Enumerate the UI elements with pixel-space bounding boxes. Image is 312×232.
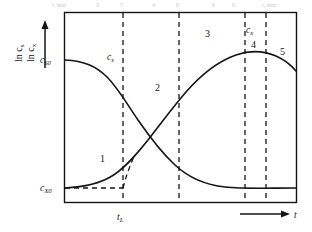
phase-label-5: 5	[280, 46, 285, 57]
y-tick-cx0-sub: X0	[43, 187, 52, 194]
bleed-through-text: 5	[120, 2, 123, 8]
substrate-curve	[65, 60, 296, 188]
bleed-through-text: 8	[176, 2, 179, 8]
y-axis-label-line2-sub: x	[30, 43, 38, 47]
bleed-through-text: 0	[232, 2, 235, 8]
y-axis-label-line2-text: ln c	[25, 47, 36, 62]
svg-text:ln cx: ln cx	[25, 43, 38, 62]
biomass-curve-label-sub: x	[249, 29, 253, 36]
y-axis-label-line2: ln cx	[25, 43, 38, 62]
x-axis-label: t	[294, 210, 297, 220]
substrate-curve-label-sub: s	[111, 56, 114, 63]
x-axis-arrow-head	[281, 211, 290, 218]
y-axis-arrow-head	[42, 20, 49, 29]
y-axis-label-line1-text: ln c	[13, 47, 24, 62]
bleed-through-text: 4	[152, 2, 155, 8]
phase-label-3: 3	[205, 28, 210, 39]
bleed-through-text: t, min	[52, 2, 66, 8]
x-tick-tl-sub: L	[119, 216, 124, 223]
x-tick-label-tl: tL	[117, 212, 124, 223]
y-axis-label-line1-sub: s	[18, 44, 26, 47]
plot-frame	[65, 13, 297, 203]
y-tick-label-cs0: cS0	[40, 55, 52, 66]
bleed-through-text: t, min	[262, 2, 276, 8]
bleed-through-text: 6	[212, 2, 215, 8]
y-tick-cs0-sub: S0	[44, 59, 51, 66]
phase-label-1: 1	[100, 153, 105, 164]
biomass-curve-label: cx	[246, 25, 253, 36]
y-tick-label-cx0: cX0	[40, 183, 52, 194]
bleed-through-text: 3	[96, 2, 99, 8]
phase-label-2: 2	[155, 82, 160, 93]
substrate-curve-label: cs	[107, 52, 114, 63]
biomass-curve	[65, 52, 296, 188]
phase-label-4: 4	[251, 39, 256, 50]
tangent-dashed-line	[123, 156, 134, 188]
growth-curve-figure: t, min 3 5 4 8 6 0 t, min ln cs	[0, 0, 312, 232]
figure-root: t, min 3 5 4 8 6 0 t, min ln cs	[0, 0, 312, 232]
